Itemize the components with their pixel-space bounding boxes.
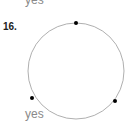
point-left bbox=[30, 96, 34, 100]
point-right bbox=[113, 99, 117, 103]
circle bbox=[28, 23, 124, 119]
point-top bbox=[74, 21, 78, 25]
circle-diagram bbox=[0, 0, 129, 129]
answer-label: yes bbox=[25, 107, 44, 121]
